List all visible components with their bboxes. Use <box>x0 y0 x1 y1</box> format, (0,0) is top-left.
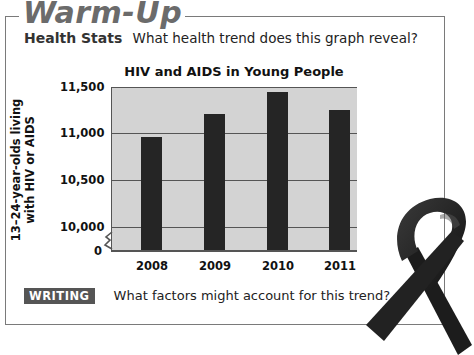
chart-title: HIV and AIDS in Young People <box>111 64 357 79</box>
y-tick-0: 0 <box>60 244 102 258</box>
prompt-question: What health trend does this graph reveal… <box>133 30 418 46</box>
x-tick-2008: 2008 <box>127 259 177 273</box>
gridline-11000 <box>112 133 357 134</box>
y-tick-11500: 11,500 <box>60 80 102 94</box>
bar-2011 <box>329 110 350 250</box>
prompt-line: Health Stats What health trend does this… <box>24 30 418 46</box>
y-tick-10500: 10,500 <box>60 173 102 187</box>
axis-break-icon <box>103 230 115 250</box>
y-axis-label: 13–24-year-olds living with HIV or AIDS <box>9 95 49 245</box>
writing-prompt: WRITING What factors might account for t… <box>24 285 390 304</box>
bar-2009 <box>204 114 225 250</box>
writing-badge: WRITING <box>24 288 95 304</box>
y-tick-10000: 10,000 <box>60 220 102 234</box>
bar-2008 <box>141 137 162 250</box>
writing-question: What factors might account for this tren… <box>114 288 391 303</box>
warmup-title: Warm-Up <box>20 0 185 30</box>
awareness-ribbon-icon <box>360 195 474 355</box>
bar-2010 <box>267 92 288 250</box>
y-tick-11000: 11,000 <box>60 126 102 140</box>
frame-top-stub <box>5 16 19 17</box>
prompt-label: Health Stats <box>24 30 122 46</box>
x-tick-2011: 2011 <box>315 259 365 273</box>
x-tick-2009: 2009 <box>190 259 240 273</box>
plot-area <box>111 87 357 252</box>
x-tick-2010: 2010 <box>253 259 303 273</box>
frame-top-line <box>150 16 444 17</box>
